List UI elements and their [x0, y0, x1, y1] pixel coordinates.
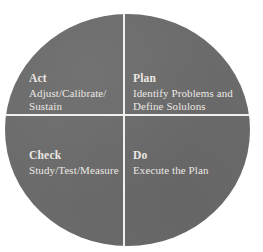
quadrant-plan-title: Plan — [133, 72, 249, 86]
quadrant-do-line-1: Execute the Plan — [133, 164, 245, 177]
cycle-circle — [5, 14, 250, 246]
quadrant-act-line-2: Sustain — [29, 100, 121, 113]
quadrant-do-description: Execute the Plan — [133, 164, 245, 177]
quadrant-act-description: Adjust/Calibrate/ Sustain — [29, 87, 121, 113]
quadrant-plan-line-2: Define Solulons — [133, 100, 249, 113]
horizontal-divider — [5, 114, 250, 116]
quadrant-check-line-1: Study/Test/Measure — [29, 164, 125, 177]
quadrant-do: Do Execute the Plan — [133, 149, 245, 177]
quadrant-plan-description: Identify Problems and Define Solulons — [133, 87, 249, 113]
quadrant-act-title: Act — [29, 72, 121, 86]
quadrant-check-title: Check — [29, 149, 125, 163]
pdca-cycle-diagram: Act Adjust/Calibrate/ Sustain Plan Ident… — [0, 0, 263, 252]
quadrant-do-title: Do — [133, 149, 245, 163]
quadrant-check-description: Study/Test/Measure — [29, 164, 125, 177]
quadrant-act: Act Adjust/Calibrate/ Sustain — [29, 72, 121, 113]
vertical-divider — [123, 14, 125, 246]
quadrant-check: Check Study/Test/Measure — [29, 149, 125, 177]
quadrant-plan: Plan Identify Problems and Define Solulo… — [133, 72, 249, 113]
quadrant-act-line-1: Adjust/Calibrate/ — [29, 87, 121, 100]
quadrant-plan-line-1: Identify Problems and — [133, 87, 249, 100]
